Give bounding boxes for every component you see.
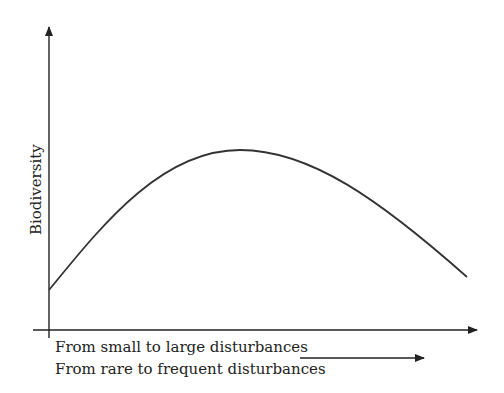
x-axis-label-line1: From small to large disturbances [55,338,308,356]
biodiversity-curve [49,150,467,290]
disturbance-biodiversity-diagram: Biodiversity From small to large disturb… [0,0,504,393]
x-axis-label-line2: From rare to frequent disturbances [55,360,326,378]
y-axis-label: Biodiversity [27,144,45,235]
